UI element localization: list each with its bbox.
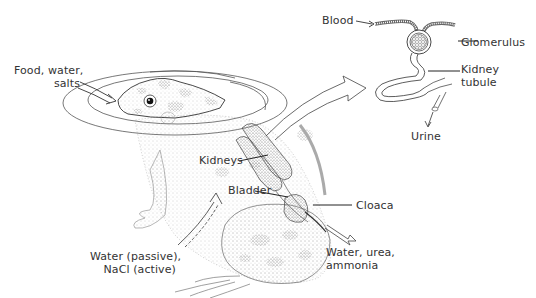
label-bladder: Bladder — [228, 184, 271, 197]
label-line: Food, water, — [14, 64, 80, 77]
label-urine: Urine — [411, 130, 441, 143]
label-kidneys: Kidneys — [199, 154, 243, 167]
label-blood: Blood — [322, 14, 354, 27]
label-cloaca: Cloaca — [356, 199, 394, 212]
label-line: NaCl (active) — [90, 263, 176, 276]
nephron-diagram — [356, 21, 455, 127]
label-line: tubule — [461, 76, 499, 89]
label-glomerulus: Glomerulus — [461, 36, 525, 49]
frog-osmoregulation-illustration — [0, 0, 536, 298]
label-line: salts — [14, 77, 80, 90]
label-line: Water, urea, — [326, 246, 395, 259]
label-line: Kidney — [461, 63, 499, 76]
label-kidney-tubule: Kidney tubule — [461, 63, 499, 89]
kidney-to-nephron-arrow-icon — [266, 76, 366, 140]
label-line: ammonia — [326, 259, 395, 272]
label-food-water-salts: Food, water, salts — [14, 64, 80, 90]
label-water-passive-nacl-active: Water (passive), NaCl (active) — [90, 250, 176, 276]
label-water-urea-ammonia: Water, urea, ammonia — [326, 246, 395, 272]
label-line: Water (passive), — [90, 250, 176, 263]
intake-arrow-icon — [78, 82, 116, 104]
